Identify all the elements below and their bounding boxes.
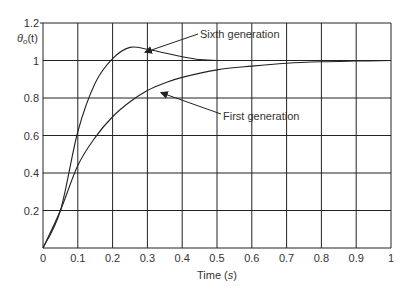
- step-response-chart: 00.10.20.30.40.50.60.70.80.910.20.40.60.…: [0, 0, 410, 292]
- x-axis-label: Time (s): [197, 269, 237, 281]
- x-tick-label: 1: [388, 252, 394, 264]
- x-tick-label: 0.7: [279, 252, 294, 264]
- y-axis-label: θo(t): [17, 32, 38, 46]
- y-tick-label: 0.6: [24, 130, 39, 142]
- y-tick-label: 1: [33, 55, 39, 67]
- y-tick-label: 0.2: [24, 205, 39, 217]
- x-tick-label: 0.5: [209, 252, 224, 264]
- y-tick-label: 1.2: [24, 17, 39, 29]
- tick-labels: 00.10.20.30.40.50.60.70.80.910.20.40.60.…: [24, 17, 394, 264]
- x-tick-label: 0.3: [140, 252, 155, 264]
- x-tick-label: 0.2: [105, 252, 120, 264]
- y-tick-label: 0.4: [24, 167, 39, 179]
- x-tick-label: 0: [40, 252, 46, 264]
- x-tick-label: 0.6: [244, 252, 259, 264]
- annotation-sixth-generation: Sixth generation: [200, 28, 280, 40]
- annotations: Sixth generationFirst generation: [145, 28, 299, 122]
- x-tick-label: 0.1: [70, 252, 85, 264]
- x-tick-label: 0.8: [314, 252, 329, 264]
- annotation-first-generation: First generation: [223, 110, 299, 122]
- grid: [40, 23, 391, 248]
- y-tick-label: 0.8: [24, 92, 39, 104]
- x-tick-label: 0.4: [175, 252, 190, 264]
- x-tick-label: 0.9: [349, 252, 364, 264]
